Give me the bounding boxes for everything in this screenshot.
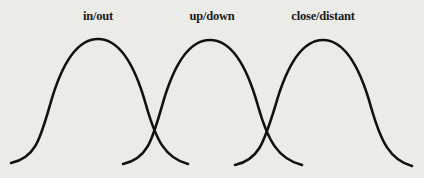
bell-curves <box>0 0 424 178</box>
diagram-canvas: in/out up/down close/distant <box>0 0 424 178</box>
bell-curve-in-out <box>11 39 188 164</box>
bell-curve-close-distant <box>235 40 412 166</box>
